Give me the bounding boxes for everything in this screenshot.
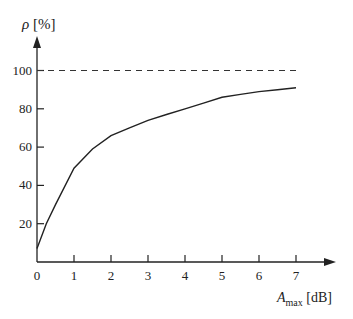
x-tick-label: 0: [29, 268, 45, 284]
y-tick-label: 60: [4, 139, 32, 155]
y-tick-label: 20: [4, 216, 32, 232]
rho-curve: [37, 88, 296, 249]
y-axis-arrow-icon: [33, 36, 41, 48]
x-tick-label: 1: [66, 268, 82, 284]
x-tick-label: 2: [103, 268, 119, 284]
y-tick-label: 80: [4, 101, 32, 117]
y-tick-label: 100: [4, 63, 32, 79]
x-tick-label: 7: [288, 268, 304, 284]
x-axis-arrow-icon: [324, 258, 336, 266]
x-tick-label: 3: [140, 268, 156, 284]
x-tick-label: 6: [251, 268, 267, 284]
x-tick-label: 4: [177, 268, 193, 284]
x-axis-label: Amax [dB]: [277, 290, 332, 308]
y-tick-label: 40: [4, 177, 32, 193]
x-tick-label: 5: [214, 268, 230, 284]
y-axis-label: ρ [%]: [22, 16, 55, 33]
